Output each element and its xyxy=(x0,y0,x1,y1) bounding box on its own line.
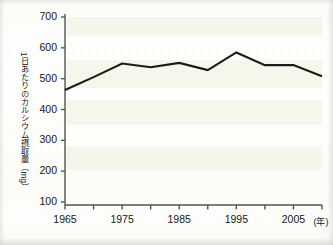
x-tick-label: 1975 xyxy=(105,213,139,225)
line-chart-plot xyxy=(0,0,333,245)
chart-figure: 1日あたりのカルシウム摂取量（mg） 100200300400500600700… xyxy=(0,0,333,245)
x-tick-label: 2005 xyxy=(276,213,310,225)
x-tick-label: 1985 xyxy=(162,213,196,225)
x-tick-label: 1965 xyxy=(48,213,82,225)
x-axis-unit-label: (年) xyxy=(313,215,328,228)
y-tick-label: 100 xyxy=(31,195,57,207)
y-tick-label: 500 xyxy=(31,72,57,84)
y-tick-label: 700 xyxy=(31,10,57,22)
plot-background-bands xyxy=(66,17,322,170)
y-tick-label: 200 xyxy=(31,164,57,176)
y-tick-label: 600 xyxy=(31,41,57,53)
x-tick-label: 1995 xyxy=(219,213,253,225)
y-tick-label: 400 xyxy=(31,103,57,115)
y-tick-label: 300 xyxy=(31,133,57,145)
